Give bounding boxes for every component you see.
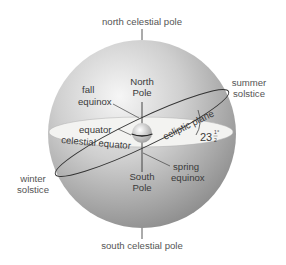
south-pole-label-line2: Pole — [132, 182, 151, 193]
svg-text:2: 2 — [214, 137, 217, 143]
equator-label: equator — [79, 124, 112, 135]
summer-solstice-label-line2: solstice — [233, 88, 265, 99]
fall-equinox-label-line2: equinox — [78, 96, 112, 107]
north-pole-label-line1: North — [130, 76, 153, 87]
north-celestial-pole-label: north celestial pole — [102, 16, 182, 27]
svg-text:23: 23 — [200, 131, 212, 143]
north-pole-label-line2: Pole — [132, 87, 151, 98]
spring-equinox-label-line2: equinox — [171, 172, 205, 183]
spring-equinox-label-line1: spring — [173, 161, 199, 172]
south-pole-label-line1: South — [129, 171, 154, 182]
celestial-sphere-diagram: north celestial pole North Pole fall equ… — [0, 0, 286, 265]
fall-equinox-label-line1: fall — [82, 84, 94, 95]
earth-globe — [132, 123, 152, 143]
diagram-canvas: north celestial pole North Pole fall equ… — [0, 0, 286, 265]
winter-solstice-label-line1: winter — [19, 173, 46, 184]
south-celestial-pole-label: south celestial pole — [101, 240, 183, 251]
winter-solstice-label-line2: solstice — [17, 184, 49, 195]
summer-solstice-label-line1: summer — [232, 77, 267, 88]
